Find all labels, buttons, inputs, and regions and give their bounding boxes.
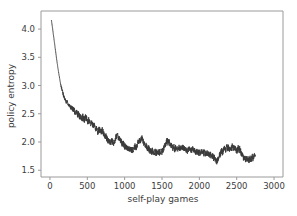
x-tick-label: 0 [47, 181, 52, 191]
policy-entropy-line-chart: 0500100015002000250030001.52.02.53.03.54… [0, 0, 297, 216]
x-axis-title: self-play games [128, 194, 199, 204]
y-axis-title: policy entropy [6, 63, 16, 128]
y-tick-label: 4.0 [21, 24, 35, 34]
x-tick-label: 1000 [114, 181, 136, 191]
y-tick-label: 3.5 [21, 52, 35, 62]
x-tick-label: 2500 [226, 181, 248, 191]
x-tick-label: 500 [79, 181, 95, 191]
x-tick-label: 2000 [189, 181, 211, 191]
x-tick-label: 1500 [151, 181, 173, 191]
x-tick-label: 3000 [263, 181, 285, 191]
figure-background [0, 0, 297, 216]
chart-figure: 0500100015002000250030001.52.02.53.03.54… [0, 0, 297, 216]
y-tick-label: 2.0 [21, 137, 35, 147]
y-tick-label: 3.0 [21, 81, 35, 91]
y-tick-label: 2.5 [21, 109, 35, 119]
y-tick-label: 1.5 [21, 165, 35, 175]
